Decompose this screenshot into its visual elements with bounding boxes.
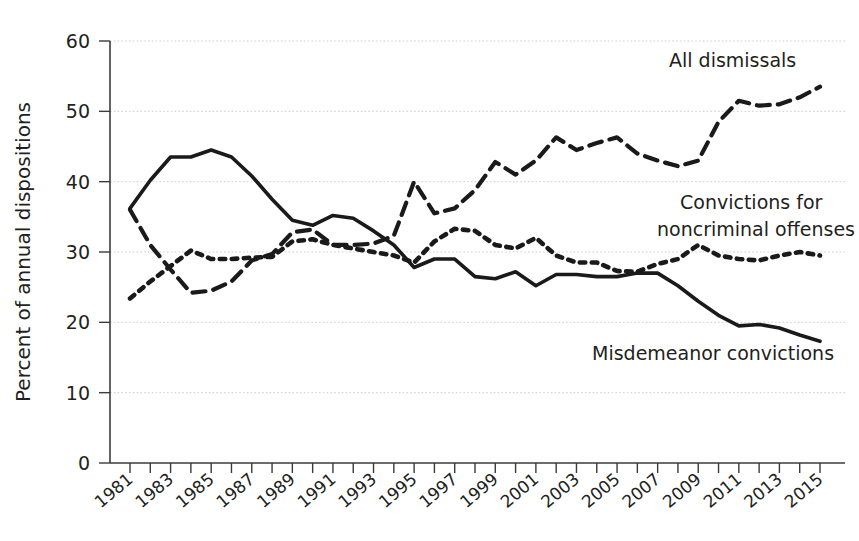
x-tick-label: 1987 bbox=[212, 469, 258, 512]
y-tick-label: 60 bbox=[66, 30, 90, 52]
annotation-all-dismissals: All dismissals bbox=[669, 49, 796, 71]
x-tick-label: 1993 bbox=[334, 469, 380, 512]
x-tick-label: 2015 bbox=[781, 469, 827, 512]
y-tick-label: 40 bbox=[66, 171, 90, 193]
x-tick-label: 1983 bbox=[131, 469, 177, 512]
x-tick-label: 2007 bbox=[618, 469, 664, 512]
gridlines-group bbox=[110, 41, 845, 393]
chart-container: 0102030405060 Percent of annual disposit… bbox=[0, 0, 859, 541]
series-line-all-dismissals bbox=[130, 87, 820, 293]
series-lines-group bbox=[130, 87, 820, 342]
y-tick-label: 50 bbox=[66, 100, 90, 122]
series-line-misdemeanor-convictions bbox=[130, 150, 820, 341]
x-tick-label: 2005 bbox=[578, 469, 624, 512]
x-tick-label: 1985 bbox=[172, 469, 218, 512]
x-tick-label: 2009 bbox=[659, 469, 705, 512]
x-tick-label: 1997 bbox=[415, 469, 461, 512]
line-chart: 0102030405060 Percent of annual disposit… bbox=[0, 0, 859, 541]
y-tick-label: 10 bbox=[66, 382, 90, 404]
y-tick-label: 0 bbox=[78, 452, 90, 474]
annotation-misdemeanor: Misdemeanor convictions bbox=[592, 342, 834, 364]
x-tick-label: 1991 bbox=[294, 469, 340, 512]
x-axis-ticks-group bbox=[130, 463, 820, 473]
x-tick-label: 2013 bbox=[740, 469, 786, 512]
y-tick-label: 20 bbox=[66, 311, 90, 333]
y-axis-ticks-group: 0102030405060 bbox=[66, 30, 110, 474]
annotation-convictions-line2: noncriminal offenses bbox=[657, 218, 855, 240]
x-tick-label: 1989 bbox=[253, 469, 299, 512]
y-axis-title: Percent of annual dispositions bbox=[11, 102, 35, 402]
x-tick-label: 1999 bbox=[456, 469, 502, 512]
x-axis-labels-group: 1981198319851987198919911993199519971999… bbox=[91, 469, 827, 512]
x-tick-label: 2003 bbox=[537, 469, 583, 512]
x-tick-label: 2001 bbox=[496, 469, 542, 512]
x-tick-label: 1981 bbox=[91, 469, 137, 512]
x-tick-label: 1995 bbox=[375, 469, 421, 512]
x-tick-label: 2011 bbox=[699, 469, 745, 512]
y-tick-label: 30 bbox=[66, 241, 90, 263]
annotation-convictions-line1: Convictions for bbox=[680, 191, 823, 213]
